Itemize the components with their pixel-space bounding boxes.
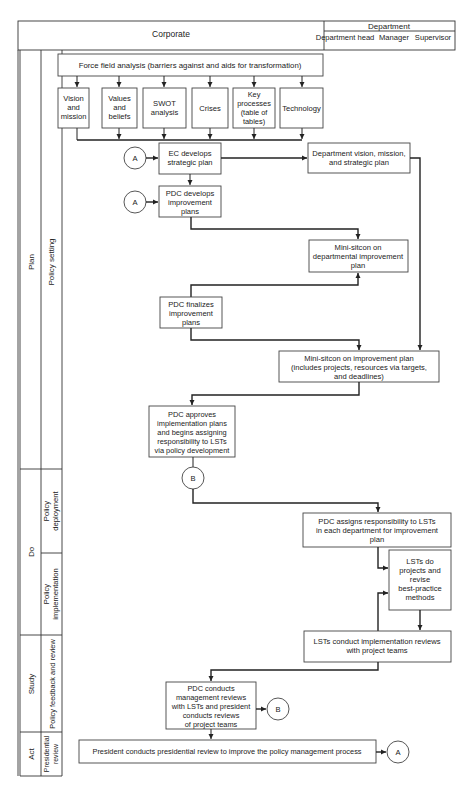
input-vision-mission: Visionandmission	[58, 88, 89, 128]
arrow-pdc-develops-to-mini-sitcon-dept	[191, 217, 358, 239]
pdc-assigns-responsibility-box: PDC assigns responsibility to LSTsin eac…	[303, 513, 451, 547]
svg-text:Force field analysis (barriers: Force field analysis (barriers against a…	[79, 61, 302, 70]
input-technology: Technology	[280, 88, 323, 128]
svg-text:President conducts presidentia: President conducts presidential review t…	[92, 747, 361, 756]
phase-plan: Plan	[27, 254, 36, 270]
stage-policy-implementation: Policyimplementation	[42, 568, 60, 620]
header-department: Department	[368, 22, 411, 31]
force-field-analysis-box: Force field analysis (barriers against a…	[58, 54, 323, 76]
ec-develops-strategic-plan-box: EC developsstrategic plan	[159, 143, 221, 174]
pdc-conducts-management-reviews-box: PDC conductsmanagement reviewswith LSTs …	[166, 682, 256, 729]
phase-act: Act	[27, 747, 36, 759]
connector-b-1: B	[182, 467, 204, 489]
arrow-assigns-to-lsts-do	[378, 547, 388, 568]
pdc-finalizes-improvement-plans-box: PDC finalizesimprovementplans	[160, 297, 222, 328]
header-col-manager: Manager	[379, 33, 409, 42]
stage-policy-setting: Policy setting	[47, 238, 56, 285]
svg-text:EC developsstrategic plan: EC developsstrategic plan	[167, 149, 212, 167]
lsts-do-projects-box: LSTs doprojects andrevisebest-practiceme…	[389, 550, 451, 610]
header: Corporate Department Department head Man…	[18, 21, 455, 50]
input-swot-analysis: SWOTanalysis	[143, 88, 186, 128]
header-col-department-head: Department head	[316, 33, 375, 42]
stage-policy-deployment: Policydeployment	[42, 490, 60, 530]
phase-study: Study	[27, 674, 36, 694]
input-crises: Crises	[192, 88, 228, 128]
connector-a-1: A	[124, 147, 158, 169]
arrow-mini-sitcon-to-pdc-approves	[192, 382, 359, 405]
input-key-processes: Keyprocesses(table oftables)	[233, 88, 275, 128]
connector-a-2: A	[124, 191, 158, 213]
svg-text:Crises: Crises	[199, 104, 221, 113]
lsts-conduct-reviews-box: LSTs conduct implementation reviewswith …	[304, 631, 451, 662]
svg-text:SWOTanalysis: SWOTanalysis	[151, 99, 179, 117]
svg-text:B: B	[275, 705, 280, 714]
arrow-dept-vision-to-mini-sitcon	[410, 158, 420, 350]
mini-sitcon-departmental-box: Mini-sitcon ondepartmental improvementpl…	[309, 240, 408, 272]
mini-sitcon-improvement-plan-box: Mini-sitcon on improvement plan(includes…	[279, 351, 439, 382]
header-col-supervisor: Supervisor	[415, 33, 452, 42]
pdc-approves-box: PDC approvesimplementation plansand begi…	[149, 406, 235, 457]
phase-do: Do	[27, 546, 36, 557]
arrow-conduct-to-lsts-do	[378, 593, 388, 631]
connector-a-3: A	[387, 741, 409, 763]
stage-policy-feedback: Policy feedback and review	[48, 639, 57, 729]
connector-b-2: B	[267, 698, 289, 720]
svg-text:B: B	[190, 474, 195, 483]
input-values-beliefs: Valuesandbeliefs	[102, 88, 137, 128]
arrow-b-to-pdc-assigns	[193, 489, 378, 512]
svg-text:Technology: Technology	[282, 104, 321, 113]
header-corporate: Corporate	[152, 29, 190, 39]
pdsa-policy-flowchart: Corporate Department Department head Man…	[0, 0, 470, 786]
arrow-pdc-finalizes-to-mini-sitcon-dept	[191, 273, 358, 297]
president-review-box: President conducts presidential review t…	[79, 740, 376, 763]
stage-presidential-review: Presidentialreview	[43, 735, 59, 772]
arrow-pdc-finalizes-to-mini-sitcon	[191, 328, 359, 350]
arrow-conduct-to-pdc-conducts	[211, 662, 378, 681]
pdc-develops-improvement-plans-box: PDC developsimprovementplans	[159, 186, 221, 217]
dept-vision-mission-box: Department vision, mission,and strategic…	[308, 143, 410, 173]
phase-columns: Plan Do Study Act Policy setting Policyd…	[18, 50, 62, 776]
